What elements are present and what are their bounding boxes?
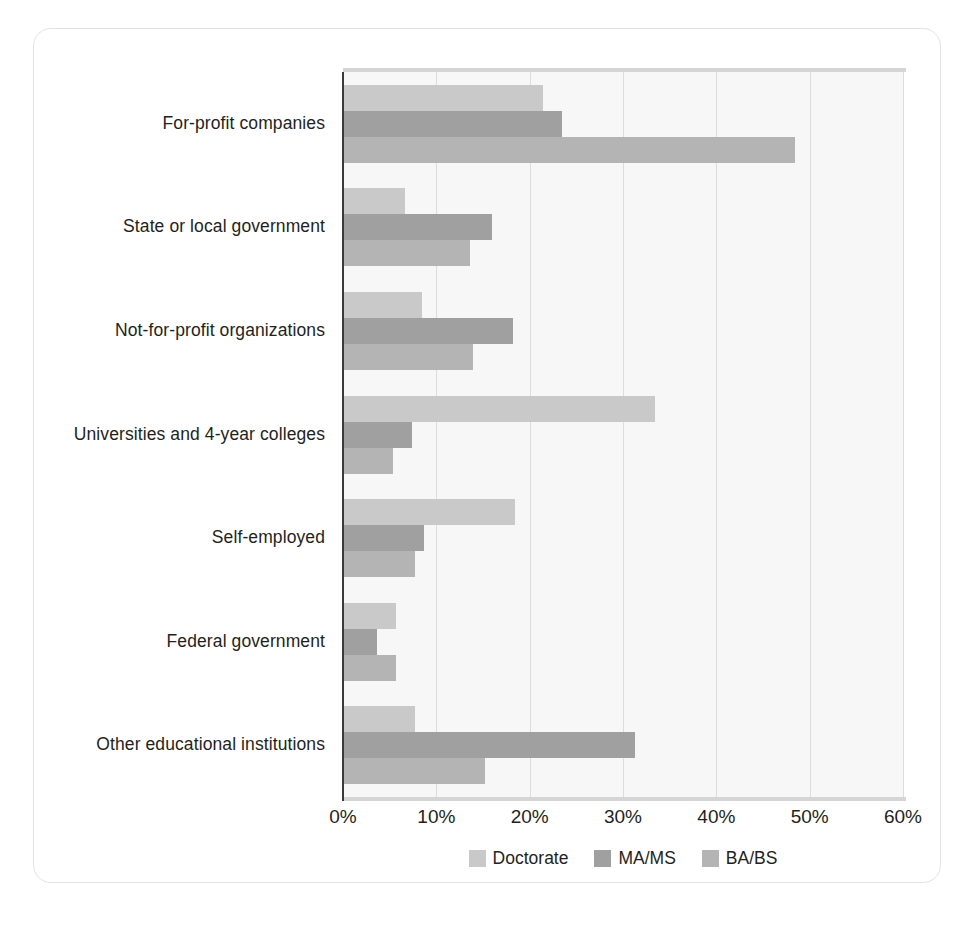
legend-item[interactable]: Doctorate [469,848,569,869]
x-axis-tick-labels: 0%10%20%30%40%50%60% [0,806,977,840]
category-label: Universities and 4-year colleges [5,424,325,445]
bar-group [343,499,903,577]
bar [343,706,415,732]
y-axis-spine [342,72,344,801]
x-tick-label: 60% [863,806,943,828]
legend-swatch-icon [594,850,611,867]
bar [343,137,795,163]
bar [343,629,377,655]
bar [343,214,492,240]
legend-label: BA/BS [726,848,778,869]
bar [343,85,543,111]
grouped-bar-chart: For-profit companiesState or local gover… [0,0,977,932]
chart-legend: DoctorateMA/MSBA/BS [343,843,903,873]
x-tick-label: 50% [770,806,850,828]
bar [343,551,415,577]
bar [343,758,485,784]
x-tick-label: 20% [490,806,570,828]
x-tick-label: 30% [583,806,663,828]
bar [343,422,412,448]
bar [343,111,562,137]
x-tick-label: 10% [396,806,476,828]
bar-group [343,706,903,784]
category-label: For-profit companies [5,113,325,134]
bar [343,448,393,474]
legend-label: Doctorate [493,848,569,869]
bar [343,292,422,318]
x-tick-label: 0% [303,806,383,828]
bar [343,240,470,266]
bar [343,732,635,758]
bar-group [343,292,903,370]
bar-group [343,396,903,474]
legend-item[interactable]: MA/MS [594,848,675,869]
plot-bottom-rule [343,797,906,801]
legend-swatch-icon [469,850,486,867]
plot-area [343,72,903,797]
legend-label: MA/MS [618,848,675,869]
bar [343,525,424,551]
bar [343,188,405,214]
category-label: Not-for-profit organizations [5,320,325,341]
category-label: Other educational institutions [5,734,325,755]
bar [343,603,396,629]
bar [343,499,515,525]
category-label: State or local government [5,216,325,237]
gridline-60 [903,72,904,797]
x-tick-label: 40% [676,806,756,828]
bar-group [343,188,903,266]
category-axis-labels: For-profit companiesState or local gover… [0,72,325,797]
bar-group [343,603,903,681]
legend-item[interactable]: BA/BS [702,848,778,869]
bar-group [343,85,903,163]
bar [343,344,473,370]
category-label: Federal government [5,631,325,652]
legend-swatch-icon [702,850,719,867]
category-label: Self-employed [5,527,325,548]
bar [343,396,655,422]
bar [343,655,396,681]
bar [343,318,513,344]
